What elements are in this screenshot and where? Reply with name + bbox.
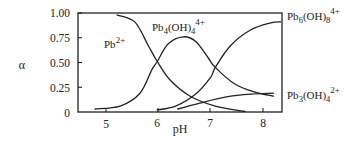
x-tick-label: 5 bbox=[103, 118, 109, 130]
y-tick-labels: 1.00 0.75 0.50 0.25 0 bbox=[50, 7, 70, 119]
y-tick-label: 0.25 bbox=[50, 82, 70, 94]
x-tick-label: 8 bbox=[260, 117, 266, 129]
x-tick-label: 7 bbox=[207, 117, 213, 129]
label-pb4oh4: Pb4(OH)44+ bbox=[152, 17, 205, 36]
curve-pb4oh4 bbox=[95, 37, 273, 109]
curve-pb3oh4 bbox=[178, 93, 274, 109]
y-axis-label: α bbox=[19, 58, 26, 72]
label-pb2plus: Pb2+ bbox=[104, 35, 125, 50]
x-axis-label: pH bbox=[173, 122, 188, 136]
curve-pb6oh8 bbox=[157, 22, 280, 110]
speciation-chart: 1.00 0.75 0.50 0.25 0 5 6 7 8 α pH Pb2+ … bbox=[0, 0, 362, 141]
label-pb6oh8: Pb6(OH)84+ bbox=[287, 6, 340, 25]
y-tick-label: 0 bbox=[64, 107, 70, 119]
y-tick-label: 1.00 bbox=[50, 7, 70, 19]
y-tick-label: 0.75 bbox=[50, 32, 70, 44]
y-tick-label: 0.50 bbox=[50, 57, 70, 69]
label-pb3oh4: Pb3(OH)42+ bbox=[287, 85, 340, 104]
x-tick-label: 6 bbox=[154, 117, 160, 129]
